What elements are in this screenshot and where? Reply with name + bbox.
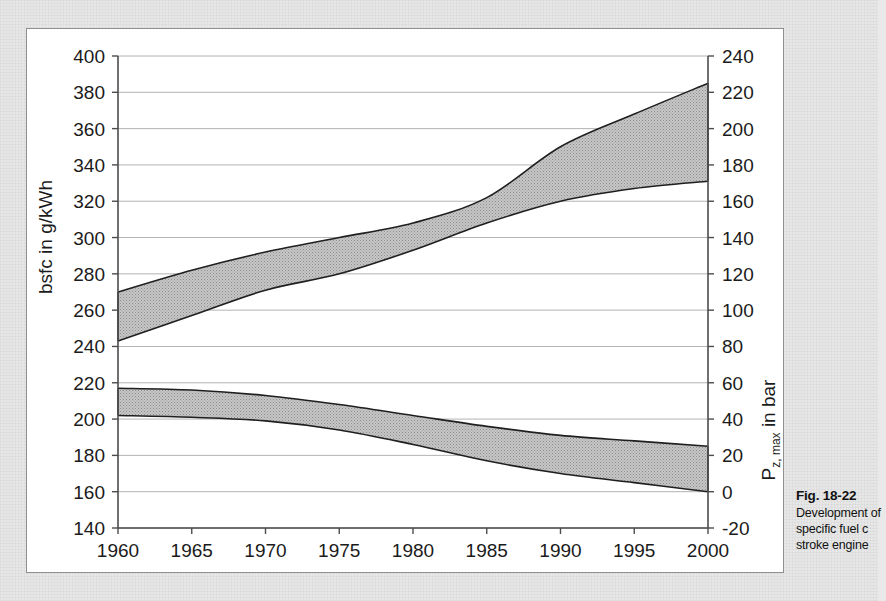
y-axis-tick-label: 240 [73, 336, 105, 357]
x-axis-tick-label: 1975 [318, 540, 360, 561]
x-axis-tick-label: 1965 [171, 540, 213, 561]
y-axis-tick-label: 280 [73, 264, 105, 285]
figure-caption: Fig. 18-22 Development of specific fuel … [796, 487, 886, 597]
y-axis-tick-label: 140 [73, 518, 105, 539]
y-axis-tick-label: 380 [73, 82, 105, 103]
y2-axis-tick-label: 0 [722, 482, 733, 503]
svg-text:Pz, max in bar: Pz, max in bar [758, 379, 783, 481]
y-axis-title: bsfc in g/kWh [35, 180, 56, 294]
x-axis-tick-label: 1985 [466, 540, 508, 561]
y-axis-tick-label: 340 [73, 155, 105, 176]
y2-axis-tick-label: 20 [722, 445, 743, 466]
y2-axis-tick-label: 140 [722, 228, 754, 249]
y2-axis-tick-label: 180 [722, 155, 754, 176]
y2-axis-tick-label: -20 [722, 518, 749, 539]
x-axis-tick-label: 1990 [539, 540, 581, 561]
data-bands [118, 83, 708, 491]
y-axis-tick-label: 300 [73, 228, 105, 249]
y-axis-tick-label: 220 [73, 373, 105, 394]
x-axis-tick-label: 1960 [97, 540, 139, 561]
y-axis-tick-label: 160 [73, 482, 105, 503]
y-axis-tick-label: 320 [73, 191, 105, 212]
figure-caption-label: Fig. 18-22 [796, 487, 886, 505]
y-axis-tick-label: 180 [73, 445, 105, 466]
y-axis-tick-label: 400 [73, 46, 105, 67]
y2-axis-tick-label: 220 [722, 82, 754, 103]
y-axis-tick-label: 200 [73, 409, 105, 430]
y2-axis-tick-label: 60 [722, 373, 743, 394]
y2-axis-tick-label: 120 [722, 264, 754, 285]
y2-axis-title: Pz, max in bar [758, 379, 783, 481]
y2-axis-tick-label: 40 [722, 409, 743, 430]
x-axis-tick-label: 1980 [392, 540, 434, 561]
figure-caption-line-2: specific fuel c [796, 521, 886, 537]
figure-caption-line-1: Development of [796, 505, 886, 521]
y2-axis-tick-label: 100 [722, 300, 754, 321]
y2-axis-tick-label: 200 [722, 119, 754, 140]
figure-caption-line-3: stroke engine [796, 537, 886, 553]
y2-axis-tick-label: 80 [722, 336, 743, 357]
x-axis-tick-label: 1995 [613, 540, 655, 561]
y-axis-tick-label: 360 [73, 119, 105, 140]
x-axis-tick-label: 1970 [244, 540, 286, 561]
y2-axis-tick-label: 240 [722, 46, 754, 67]
x-axis-tick-label: 2000 [687, 540, 729, 561]
y-axis-tick-label: 260 [73, 300, 105, 321]
y2-axis-tick-label: 160 [722, 191, 754, 212]
